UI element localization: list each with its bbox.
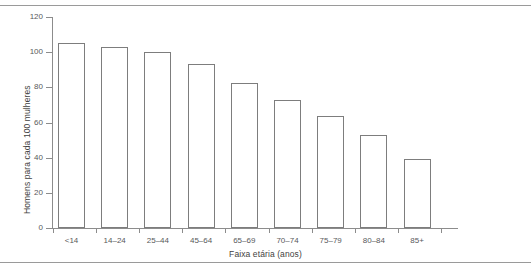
y-axis-tick-label: 100 — [0, 48, 43, 56]
y-axis-line — [52, 17, 53, 229]
bar — [58, 43, 85, 228]
x-axis-tick — [441, 228, 442, 233]
y-axis-tick — [46, 87, 52, 88]
y-axis-tick — [46, 123, 52, 124]
x-axis-tick — [53, 228, 54, 233]
x-axis-tick — [355, 228, 356, 233]
bar-chart-plot-area: 020406080100120 <1414–2425–4445–6465–697… — [0, 0, 531, 272]
figure-container: 020406080100120 <1414–2425–4445–6465–697… — [0, 0, 531, 272]
x-axis-tick — [96, 228, 97, 233]
bar — [404, 159, 431, 228]
y-axis-tick — [46, 158, 52, 159]
y-axis-tick — [46, 193, 52, 194]
y-axis-tick-label-text: 0 — [3, 224, 43, 232]
bar — [317, 116, 344, 228]
x-axis-tick — [225, 228, 226, 233]
bar — [188, 64, 215, 228]
x-axis-tick — [139, 228, 140, 233]
bar — [274, 100, 301, 228]
bar — [231, 83, 258, 228]
x-axis-tick — [182, 228, 183, 233]
x-axis-title: Faixa etária (anos) — [0, 249, 531, 259]
y-axis-tick — [46, 228, 52, 229]
bar — [360, 135, 387, 228]
x-axis-tick — [312, 228, 313, 233]
y-axis-tick-label-text: 120 — [3, 13, 43, 21]
y-axis-tick — [46, 52, 52, 53]
bar — [101, 47, 128, 228]
y-axis-tick-label: 0 — [0, 224, 43, 232]
y-axis-tick — [46, 17, 52, 18]
y-axis-tick-label-text: 100 — [3, 48, 43, 56]
x-axis-tick — [398, 228, 399, 233]
bar — [144, 52, 171, 228]
y-axis-title: Homens para cada 100 mulheres — [22, 85, 32, 214]
x-axis-tick-label: 85+ — [392, 236, 442, 245]
y-axis-tick-label: 120 — [0, 13, 43, 21]
x-axis-tick — [269, 228, 270, 233]
